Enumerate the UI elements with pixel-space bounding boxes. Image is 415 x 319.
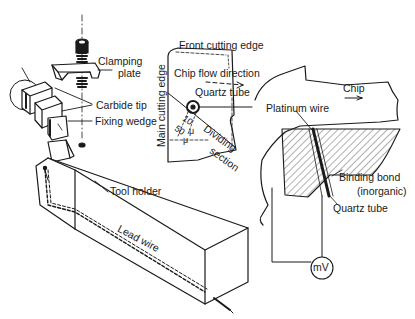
label-chip: Chip bbox=[343, 83, 365, 94]
label-binding-bond-line2: (inorganic) bbox=[357, 186, 407, 197]
fixing-wedge-icon bbox=[48, 116, 68, 140]
label-chip-flow-direction: Chip flow direction bbox=[174, 68, 260, 79]
clamping-plate-icon bbox=[52, 63, 100, 80]
label-clamping-plate-line1: Clamping bbox=[98, 56, 142, 67]
label-carbide-tip: Carbide tip bbox=[96, 100, 147, 111]
label-tool-holder: Tool holder bbox=[110, 186, 161, 197]
label-quartz-tube-top: Quartz tube bbox=[195, 87, 250, 98]
label-platinum-wire: Platinum wire bbox=[266, 103, 329, 114]
thermocouple-tool-diagram: Clamping plate Carbide tip Fixing wedge … bbox=[0, 0, 415, 319]
screw-hole-icon bbox=[79, 143, 85, 147]
leader-tool-holder bbox=[95, 181, 108, 192]
label-front-cutting-edge: Front cutting edge bbox=[179, 40, 264, 51]
label-dim-unit-1: μ bbox=[189, 127, 194, 136]
exploded-assembly bbox=[10, 15, 112, 162]
label-millivoltmeter: mV bbox=[313, 262, 329, 273]
label-dim-unit-2: μ bbox=[183, 136, 188, 145]
label-clamping-plate-line2: plate bbox=[118, 68, 141, 79]
label-main-cutting-edge: Main cutting edge bbox=[156, 64, 167, 147]
insert-top-view bbox=[168, 48, 252, 162]
label-binding-bond-line1: Binding bond bbox=[339, 172, 400, 183]
label-quartz-tube-bottom: Quartz tube bbox=[333, 203, 388, 214]
label-fixing-wedge: Fixing wedge bbox=[95, 116, 157, 127]
